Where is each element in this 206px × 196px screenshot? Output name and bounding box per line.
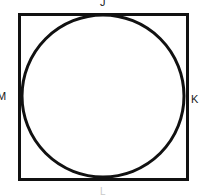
vertex-label-l: L	[100, 186, 106, 196]
vertex-label-j: J	[100, 0, 106, 8]
geometry-figure: J K M L	[0, 0, 206, 196]
geometry-canvas	[0, 0, 206, 196]
vertex-label-m: M	[0, 91, 6, 102]
vertex-label-k: K	[191, 94, 198, 105]
